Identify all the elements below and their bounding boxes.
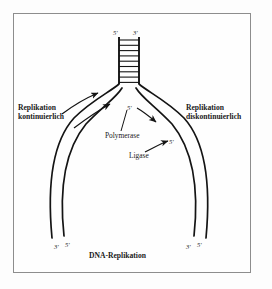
polymerase-leader <box>121 110 127 131</box>
leader-lines <box>121 110 127 131</box>
prime-label-ligase-target: 5' <box>169 138 174 146</box>
dna-replication-diagram <box>0 0 272 289</box>
prime-label-fork-nascent: 5' <box>127 104 132 112</box>
parental-duplex <box>119 37 139 84</box>
ladder-rungs <box>119 40 139 82</box>
prime-label-right-inner: 3' <box>186 243 191 251</box>
label-replikation-kontinuierlich: Replikation kontinuierlich <box>18 104 64 121</box>
direction-arrows <box>62 93 168 152</box>
polymerase-arrow <box>137 108 156 122</box>
left-strand-inner <box>62 88 122 236</box>
leading-strand-inner-arrow <box>74 104 110 128</box>
prime-label-right-outer: 5' <box>197 241 202 249</box>
leading-strand-outer-arrow <box>62 93 98 114</box>
label-right-line2: diskontinuierlich <box>186 113 241 122</box>
label-replikation-diskontinuierlich: Replikation diskontinuierlich <box>186 104 241 121</box>
prime-label-left-inner: 3' <box>54 243 59 251</box>
prime-label-left-outer: 5' <box>65 241 70 249</box>
figure-page: Replikation kontinuierlich Replikation d… <box>0 0 272 289</box>
prime-label-parent-left: 5' <box>113 29 118 37</box>
figure-caption: DNA-Replikation <box>89 252 146 261</box>
label-ligase: Ligase <box>129 152 149 161</box>
label-left-line2: kontinuierlich <box>18 113 64 122</box>
prime-label-parent-right: 3' <box>133 29 138 37</box>
label-polymerase: Polymerase <box>105 132 139 141</box>
